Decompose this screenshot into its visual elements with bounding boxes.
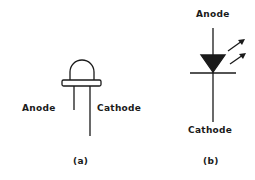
panel-b-cathode-label: Cathode: [188, 126, 232, 135]
led-dome: [70, 60, 94, 80]
diagram-drawing: [0, 0, 255, 180]
led-base-flange: [62, 80, 101, 86]
panel-b-anode-label: Anode: [196, 10, 230, 19]
panel-b-caption: (b): [203, 157, 219, 166]
light-emission-arrows-icon: [228, 39, 246, 64]
panel-a-anode-label: Anode: [22, 104, 56, 113]
panel-a-caption: (a): [73, 157, 88, 166]
led-package-icon: [62, 60, 101, 136]
led-figure: Anode Cathode (a) Anode Cathode (b): [0, 0, 255, 180]
led-schematic-icon: [190, 28, 246, 122]
panel-a-cathode-label: Cathode: [97, 104, 141, 113]
diode-triangle: [201, 55, 225, 72]
